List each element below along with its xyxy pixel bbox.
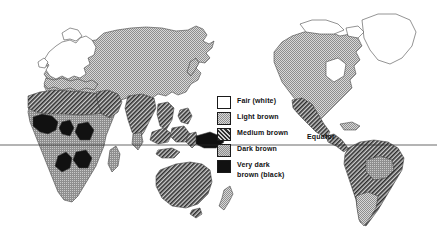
region-indonesia-west (150, 128, 172, 144)
region-madagascar (108, 146, 120, 172)
legend-label-light: Light brown (237, 112, 279, 122)
region-indochina (157, 102, 174, 130)
region-hudson-bay-islands (346, 26, 364, 38)
region-philippines (178, 108, 192, 124)
legend-item-medium: Medium brown (217, 128, 307, 141)
region-canadian-arctic (300, 20, 344, 34)
region-southern-south-america (356, 192, 378, 226)
region-new-zealand (219, 186, 233, 210)
legend-swatch-light (217, 112, 231, 125)
world-map-figure: .ln{stroke:#3a3a3a;stroke-width:.55;stro… (0, 0, 437, 236)
legend-swatch-medium (217, 128, 231, 141)
region-java (156, 148, 180, 158)
region-caribbean (340, 122, 360, 130)
legend-item-verydark: Very dark brown (black) (217, 160, 307, 179)
legend-label-dark: Dark brown (237, 144, 277, 154)
region-south-india-sri-lanka (132, 132, 143, 150)
legend-item-fair: Fair (white) (217, 96, 307, 109)
legend-swatch-dark (217, 144, 231, 157)
equator-label: Equator (307, 133, 335, 140)
legend-label-fair: Fair (white) (237, 96, 276, 106)
legend-item-dark: Dark brown (217, 144, 307, 157)
region-greenland (362, 14, 416, 64)
legend: Fair (white) Light brown Medium brown Da… (217, 96, 307, 182)
legend-swatch-fair (217, 96, 231, 109)
legend-label-verydark-line1: Very dark (237, 160, 284, 170)
region-south-america (344, 140, 404, 226)
region-tasmania (190, 208, 202, 218)
legend-label-verydark-line2: brown (black) (237, 170, 284, 180)
legend-swatch-verydark (217, 160, 231, 173)
region-australia (156, 162, 212, 208)
legend-label-medium: Medium brown (237, 128, 288, 138)
legend-item-light: Light brown (217, 112, 307, 125)
